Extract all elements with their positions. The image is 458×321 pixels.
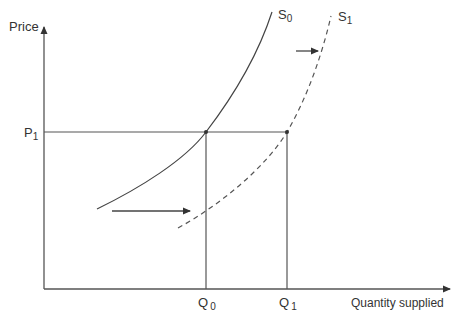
p1-label: P1 [24, 125, 39, 142]
s0-label: S0 [278, 7, 293, 24]
s1-label: S1 [338, 9, 353, 26]
supply-curve-s1 [178, 16, 331, 228]
q1-label: Q1 [279, 295, 297, 312]
equilibrium-point-s1 [285, 130, 289, 134]
supply-shift-diagram: Price Quantity supplied P1 Q0 Q1 S0 S1 [0, 0, 458, 321]
q0-label: Q0 [198, 295, 216, 312]
equilibrium-point-s0 [204, 130, 208, 134]
y-axis-label: Price [9, 19, 39, 34]
x-axis-label: Quantity supplied [351, 296, 444, 310]
